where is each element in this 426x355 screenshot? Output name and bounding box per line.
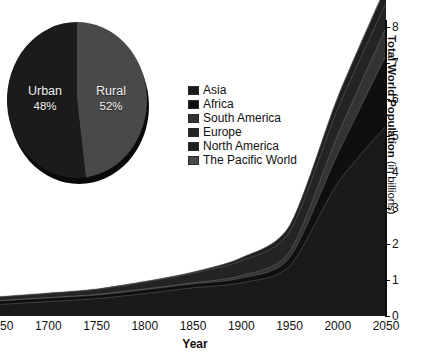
x-axis-tick-label: 1950 xyxy=(270,319,310,333)
legend-item[interactable]: Africa xyxy=(188,98,297,111)
y-axis-tick-label: 1 xyxy=(392,274,406,286)
y-axis-tick-label: 8 xyxy=(392,21,406,33)
pie-label-urban-value: 48% xyxy=(14,99,76,114)
y-axis-tick xyxy=(385,27,390,28)
x-axis-tick-label: 1850 xyxy=(173,319,213,333)
legend-swatch-icon xyxy=(188,86,199,95)
pie-label-rural-name: Rural xyxy=(96,84,126,98)
x-axis-tick-labels: 165017001750180018501900195020002050 xyxy=(0,319,390,335)
legend-item-label: Asia xyxy=(203,84,226,96)
y-axis-title-bold: Total World Population xyxy=(386,35,398,158)
legend-swatch-icon xyxy=(188,100,199,109)
x-axis-tick-label: 1750 xyxy=(77,319,117,333)
legend-item-label: The Pacific World xyxy=(203,154,297,166)
x-axis-tick-label: 2000 xyxy=(318,319,358,333)
legend-item-label: Africa xyxy=(203,98,234,110)
legend-item[interactable]: The Pacific World xyxy=(188,154,297,167)
legend-swatch-icon xyxy=(188,114,199,123)
y-axis-tick xyxy=(385,280,390,281)
legend-swatch-icon xyxy=(188,156,199,165)
x-axis-tick-label: 1650 xyxy=(0,319,20,333)
y-axis-title: Total World Population (in billions) xyxy=(378,35,398,265)
chart-canvas: 012345678 Total World Population (in bil… xyxy=(0,0,426,355)
x-axis-tick-label: 1900 xyxy=(221,319,261,333)
legend-item[interactable]: North America xyxy=(188,140,297,153)
y-axis-title-regular: (in billions) xyxy=(386,161,398,215)
legend-item[interactable]: Asia xyxy=(188,84,297,97)
pie-label-urban: Urban48% xyxy=(14,84,76,114)
x-axis-title: Year xyxy=(0,337,390,351)
chart-legend: AsiaAfricaSouth AmericaEuropeNorth Ameri… xyxy=(188,84,297,168)
pie-label-rural-value: 52% xyxy=(80,99,142,114)
pie-label-urban-name: Urban xyxy=(28,84,62,98)
legend-item-label: South America xyxy=(203,112,281,124)
x-axis-tick-label: 2050 xyxy=(366,319,406,333)
legend-item[interactable]: Europe xyxy=(188,126,297,139)
x-axis-tick-label: 1800 xyxy=(125,319,165,333)
legend-swatch-icon xyxy=(188,128,199,137)
legend-swatch-icon xyxy=(188,142,199,151)
x-axis-tick-label: 1700 xyxy=(28,319,68,333)
legend-item-label: North America xyxy=(203,140,279,152)
legend-item-label: Europe xyxy=(203,126,242,138)
y-axis-tick xyxy=(385,316,390,317)
pie-label-rural: Rural52% xyxy=(80,84,142,114)
urban-rural-pie-chart: Urban48% Rural52% xyxy=(6,16,156,188)
legend-item[interactable]: South America xyxy=(188,112,297,125)
